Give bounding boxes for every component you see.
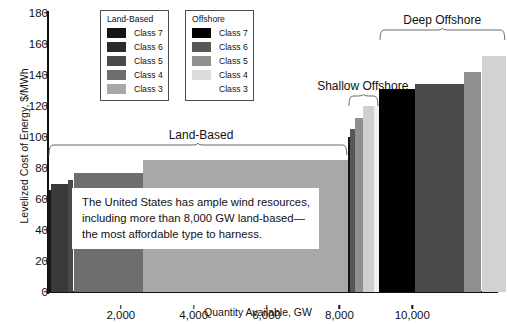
- legend-label: Class 4: [219, 70, 248, 80]
- legend-entry: Class 6: [192, 40, 248, 54]
- bar: [415, 84, 464, 292]
- y-tick-label: 140: [4, 69, 48, 81]
- legend-swatch: [107, 28, 126, 38]
- legend-entry: Class 7: [107, 26, 163, 40]
- bar: [355, 118, 364, 292]
- y-tick-label: 40: [4, 224, 48, 236]
- callout-textbox: The United States has ample wind resourc…: [72, 188, 319, 249]
- legend-land-based: Land-Based Class 7Class 6Class 5Class 4C…: [100, 10, 169, 101]
- legend-swatch: [192, 42, 211, 52]
- y-tick-label: 80: [4, 162, 48, 174]
- y-tick-label: 60: [4, 193, 48, 205]
- x-axis-label: Quantity Available, GW: [48, 306, 468, 318]
- legend-entry: Class 4: [107, 68, 163, 82]
- y-axis-ticks: 020406080100120140160180: [0, 0, 48, 324]
- legend-label: Class 4: [134, 70, 163, 80]
- legend-entry: Class 6: [107, 40, 163, 54]
- y-tick-label: 180: [4, 7, 48, 19]
- legend-swatch: [192, 84, 211, 94]
- legend-label: Class 6: [219, 42, 248, 52]
- callout-line-3: the most affordable type to harness.: [82, 226, 310, 242]
- legend-swatch: [107, 70, 126, 80]
- legend-swatch: [107, 56, 126, 66]
- y-tick-label: 100: [4, 131, 48, 143]
- bar: [51, 184, 68, 293]
- y-tick-label: 0: [4, 286, 48, 298]
- legend-swatch: [192, 70, 211, 80]
- y-tick-label: 120: [4, 100, 48, 112]
- legend-label: Class 7: [134, 28, 163, 38]
- group-bracket: [379, 28, 506, 40]
- legend-entry: Class 3: [107, 82, 163, 96]
- legend-entry: Class 3: [192, 82, 248, 96]
- legend-offshore-rows: Class 7Class 6Class 5Class 4Class 3: [192, 26, 248, 96]
- group-label-land-based: Land-Based: [169, 128, 234, 142]
- legend-label: Class 3: [219, 84, 248, 94]
- legend-label: Class 5: [219, 56, 248, 66]
- legend-entry: Class 5: [192, 54, 248, 68]
- legend-entry: Class 7: [192, 26, 248, 40]
- legend-land-based-title: Land-Based: [107, 14, 163, 24]
- legend-entry: Class 5: [107, 54, 163, 68]
- group-bracket: [348, 94, 379, 106]
- legend-entry: Class 4: [192, 68, 248, 82]
- legend-offshore: Offshore Class 7Class 6Class 5Class 4Cla…: [185, 10, 254, 101]
- bar: [363, 106, 374, 292]
- group-bracket: [48, 143, 348, 155]
- callout-line-2: including more than 8,000 GW land-based—: [82, 210, 310, 226]
- legend-label: Class 7: [219, 28, 248, 38]
- legend-swatch: [107, 42, 126, 52]
- legend-swatch: [192, 28, 211, 38]
- chart-root: Levelized Cost of Energy, $/MWh 02040608…: [0, 0, 507, 324]
- bar: [379, 89, 415, 292]
- callout-line-1: The United States has ample wind resourc…: [82, 194, 310, 210]
- legend-label: Class 6: [134, 42, 163, 52]
- legend-label: Class 3: [134, 84, 163, 94]
- bar: [464, 72, 481, 292]
- legend-label: Class 5: [134, 56, 163, 66]
- legend-swatch: [107, 84, 126, 94]
- y-tick-label: 160: [4, 38, 48, 50]
- group-label-deep-offshore: Deep Offshore: [403, 13, 481, 27]
- group-label-shallow-offshore: Shallow Offshore: [317, 79, 408, 93]
- legend-offshore-title: Offshore: [192, 14, 248, 24]
- bar: [482, 56, 506, 292]
- legend-swatch: [192, 56, 211, 66]
- y-tick-label: 20: [4, 255, 48, 267]
- legend-land-based-rows: Class 7Class 6Class 5Class 4Class 3: [107, 26, 163, 96]
